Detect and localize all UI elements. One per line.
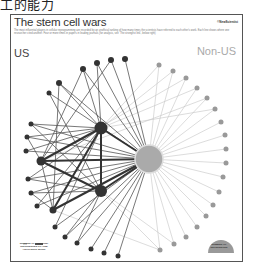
us-edges	[26, 59, 149, 256]
legend-right-text: NUMBER OF REFERENCES	[204, 243, 234, 249]
us-nodes	[24, 56, 129, 259]
caption-text: 工的能力	[0, 0, 54, 13]
legend-number-of-references: NUMBER OF REFERENCES	[204, 243, 234, 249]
figure-frame: The stem cell wars ©NewScientist The mos…	[10, 14, 243, 262]
legend-left-text: NUMBER OF AUTHORS' REFERENCES TO ONE ANO…	[14, 242, 54, 251]
legend-references: NUMBER OF AUTHORS' REFERENCES TO ONE ANO…	[14, 242, 54, 251]
hub-node	[135, 145, 163, 173]
citation-network	[11, 15, 244, 263]
